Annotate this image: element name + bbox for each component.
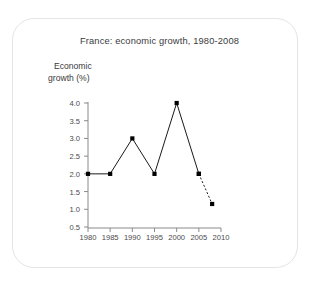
- x-axis-ticks: [88, 228, 221, 232]
- y-tick-label: 3.5: [58, 116, 80, 125]
- data-point-marker: [210, 202, 214, 206]
- data-point-marker: [130, 136, 134, 140]
- data-point-marker: [86, 172, 90, 176]
- data-point-marker: [175, 101, 179, 105]
- data-point-marker: [197, 172, 201, 176]
- y-tick-label: 1.5: [58, 187, 80, 196]
- y-tick-label: 3.0: [58, 134, 80, 143]
- series-line: [199, 174, 212, 204]
- series-line: [88, 103, 199, 174]
- y-tick-label: 2.0: [58, 169, 80, 178]
- data-point-marker: [152, 172, 156, 176]
- y-tick-label: 4.0: [58, 99, 80, 108]
- y-tick-label: 0.5: [58, 223, 80, 232]
- y-axis-ticks: [84, 103, 88, 227]
- line-chart-plot: [0, 0, 319, 285]
- x-tick-label: 2010: [208, 233, 234, 242]
- data-point-marker: [108, 172, 112, 176]
- y-tick-label: 1.0: [58, 205, 80, 214]
- data-series-layer: [86, 101, 214, 206]
- y-tick-label: 2.5: [58, 152, 80, 161]
- axes: [88, 102, 221, 228]
